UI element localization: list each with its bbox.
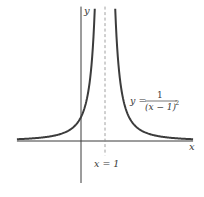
equation-denominator: (x − 1) <box>145 102 177 112</box>
curve-left-branch <box>17 9 95 139</box>
equation-exponent: 2 <box>175 99 179 107</box>
equation-lhs: y = <box>129 95 146 106</box>
equation-numerator: 1 <box>157 90 163 100</box>
plot-area: y x x = 1 y = 1 (x − 1) 2 <box>0 0 204 197</box>
equation-label: y = 1 (x − 1) 2 <box>129 90 179 112</box>
y-axis-label: y <box>83 5 90 16</box>
asymptote-label: x = 1 <box>94 158 119 169</box>
x-axis-label: x <box>189 141 195 152</box>
curve-right-branch <box>115 9 193 139</box>
